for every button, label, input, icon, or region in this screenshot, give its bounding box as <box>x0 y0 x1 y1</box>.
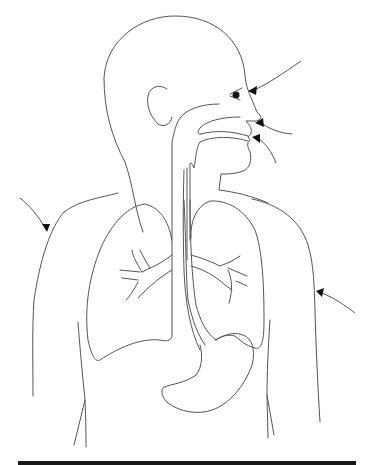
right-shoulder-outline <box>252 199 320 422</box>
tongue-upper-outline <box>201 132 248 136</box>
right-lung-outline <box>191 201 264 348</box>
arrow-left-shoulder <box>20 198 50 232</box>
left-bronchiole-5 <box>126 282 138 300</box>
right-bronchus-lower <box>191 266 232 290</box>
left-torso-line <box>74 322 85 445</box>
stomach-outline <box>162 334 254 413</box>
ear-outline <box>148 86 172 125</box>
left-shoulder-outline <box>33 193 118 396</box>
right-torso-line <box>267 320 270 438</box>
left-bronchus <box>142 255 172 272</box>
arrow-right-side <box>316 288 355 313</box>
left-bronchus-lower <box>138 270 172 298</box>
arrowhead-icon <box>316 288 324 297</box>
right-bronchus <box>191 255 230 266</box>
nasal-cavity-outline <box>172 104 219 240</box>
left-bronchiole-2 <box>140 250 150 268</box>
bottom-bar <box>18 461 356 465</box>
left-lung-outline <box>87 204 172 360</box>
right-bronchiole-4 <box>236 281 247 286</box>
respiratory-system-diagram <box>0 0 370 465</box>
arrow-mouth <box>252 134 276 163</box>
right-bronchiole-3 <box>228 270 232 303</box>
head-outline <box>104 16 268 232</box>
right-bronchiole-1 <box>230 256 240 262</box>
right-bronchiole-2 <box>228 268 247 276</box>
left-bronchiole-4 <box>122 278 138 280</box>
arrow-nasal-passage <box>255 118 292 134</box>
arrowhead-icon <box>252 134 260 143</box>
arrowhead-icon <box>42 224 50 232</box>
arrow-nose <box>248 61 301 95</box>
left-torso-line-2 <box>85 400 86 447</box>
left-bronchiole-1 <box>132 250 142 272</box>
left-bronchiole-3 <box>120 270 140 272</box>
